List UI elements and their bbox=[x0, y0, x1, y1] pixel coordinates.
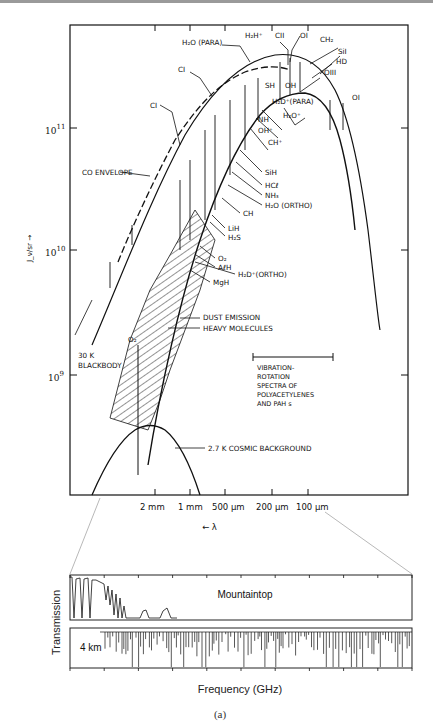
x-tick-label: 1 mm bbox=[178, 502, 203, 512]
series-30k-blackbody bbox=[92, 54, 380, 345]
vibration-range-bracket bbox=[253, 353, 333, 361]
label-oh-plus: OH⁺ bbox=[258, 126, 273, 135]
panel-4km-label: 4 km bbox=[80, 642, 102, 653]
y-tick-label: 1011 bbox=[45, 123, 65, 136]
annotation-cosmic-background: 2.7 K COSMIC BACKGROUND bbox=[208, 444, 312, 453]
label-ci-lower: CI bbox=[150, 101, 157, 110]
annotation-and-pahs: AND PAH s bbox=[257, 400, 292, 408]
annotation-vibration: VIBRATION- bbox=[257, 364, 295, 372]
series-mountaintop bbox=[70, 577, 177, 618]
annotation-30k: 30 K bbox=[78, 351, 94, 360]
panel-4km-frame bbox=[70, 628, 412, 668]
series-cosmic-background bbox=[92, 426, 200, 496]
label-h2s: H₂S bbox=[228, 233, 241, 242]
label-h2h-plus: H₂H⁺ bbox=[245, 31, 263, 40]
label-sii: SiI bbox=[338, 47, 347, 56]
annotation-blackbody: BLACKBODY bbox=[78, 361, 122, 370]
bottom-ticks bbox=[155, 489, 308, 495]
x-axis-title: ← λ bbox=[202, 522, 217, 532]
label-h2d-plus-para: H₂D⁺(PARA) bbox=[272, 97, 314, 106]
annotation-polyacetylenes: POLYACETYLENES bbox=[257, 391, 314, 399]
label-o2-lower: O₂ bbox=[128, 335, 137, 344]
x-tick-label: 2 mm bbox=[140, 502, 165, 512]
y-axis-title: J_ν/sr → bbox=[25, 235, 34, 263]
annotation-rotation: ROTATION bbox=[257, 373, 290, 381]
upper-plot: 1011 1010 109 J_ν/sr → 2 mm 1 mm 500 μm … bbox=[25, 25, 408, 532]
frequency-axis-title: Frequency (GHz) bbox=[198, 683, 282, 695]
label-cii: CII bbox=[275, 31, 284, 40]
top-ticks bbox=[155, 25, 308, 31]
figure-caption: (a) bbox=[214, 708, 227, 721]
x-tick-label: 200 μm bbox=[256, 502, 289, 512]
label-ch: CH bbox=[243, 209, 253, 218]
label-nh: NH bbox=[258, 115, 269, 124]
label-sh: SH bbox=[265, 81, 275, 90]
label-hcl: HCℓ bbox=[265, 181, 278, 190]
label-h2o-para: H₂O (PARA) bbox=[182, 38, 222, 47]
label-h2o-ortho: H₂O (ORTHO) bbox=[265, 201, 313, 210]
label-lih: LiH bbox=[228, 224, 239, 233]
label-oh: OH bbox=[285, 81, 296, 90]
label-hd: HD bbox=[336, 57, 347, 66]
label-sih: SiH bbox=[265, 168, 277, 177]
label-o2-upper: O₂ bbox=[218, 254, 227, 263]
label-h2o-plus: H₂O⁺ bbox=[283, 111, 301, 120]
series-4km bbox=[100, 632, 412, 667]
label-h2d-plus-ortho: H₂D⁺(ORTHO) bbox=[238, 270, 287, 279]
label-ch2: CH₂ bbox=[320, 35, 333, 44]
lower-plot: Mountaintop 4 km Transmission Frequency … bbox=[50, 575, 412, 721]
annotation-heavy-molecules: HEAVY MOLECULES bbox=[203, 324, 273, 333]
label-oi-top: OI bbox=[300, 31, 308, 40]
x-tick-label: 100 μm bbox=[296, 502, 329, 512]
label-oi-right: OI bbox=[352, 93, 360, 102]
figure: 1011 1010 109 J_ν/sr → 2 mm 1 mm 500 μm … bbox=[0, 0, 433, 728]
label-alh: AℓH bbox=[218, 263, 231, 272]
annotation-dust-emission: DUST EMISSION bbox=[203, 313, 260, 322]
transmission-axis-title: Transmission bbox=[50, 590, 62, 655]
x-tick-label: 500 μm bbox=[212, 502, 245, 512]
y-tick-label: 109 bbox=[48, 370, 64, 383]
annotation-co-envelope: CO ENVELOPE bbox=[82, 168, 133, 177]
label-nh3: NH₃ bbox=[265, 191, 279, 200]
label-mgh: MgH bbox=[213, 278, 229, 287]
y-tick-label: 1010 bbox=[45, 245, 65, 258]
annotation-spectra-of: SPECTRA OF bbox=[257, 382, 298, 390]
panel-mountaintop-label: Mountaintop bbox=[217, 589, 272, 600]
label-oiii: OIII bbox=[324, 68, 336, 77]
label-ch-plus: CH⁺ bbox=[268, 138, 282, 147]
label-ci-upper: CI bbox=[178, 65, 185, 74]
